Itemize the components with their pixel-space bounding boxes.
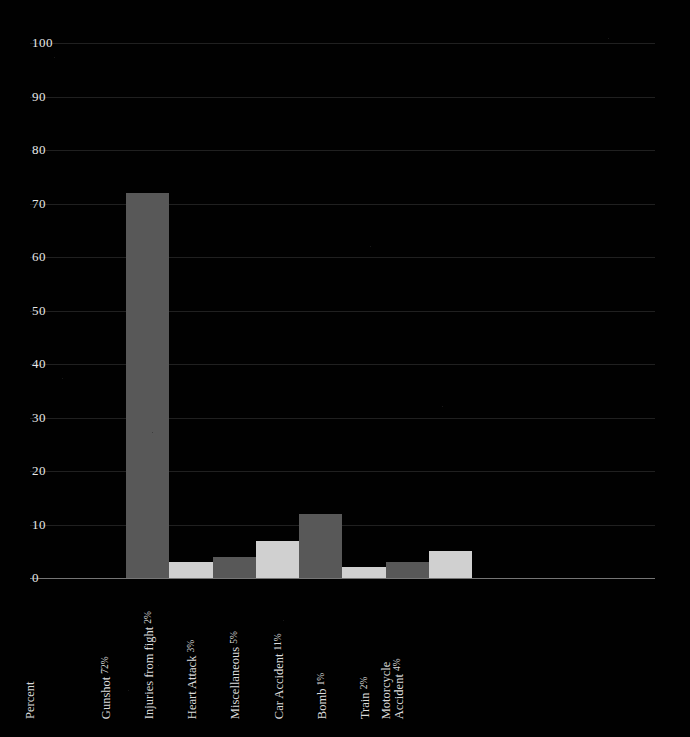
noise-speck xyxy=(608,38,609,39)
category-label-percent: 11% xyxy=(272,633,282,650)
x-category-label: Heart Attack 3% xyxy=(186,640,199,719)
plot-area xyxy=(30,43,655,578)
category-label-percent: 2% xyxy=(142,611,152,624)
noise-speck xyxy=(283,620,284,621)
category-label-percent: 3% xyxy=(186,640,196,653)
category-label-percent: 5% xyxy=(229,631,239,644)
y-tick-label: 0 xyxy=(32,570,39,586)
bar xyxy=(169,562,212,578)
x-axis-title: Percent xyxy=(23,682,38,719)
bar xyxy=(342,567,385,578)
y-tick-label: 90 xyxy=(32,89,46,105)
y-tick-label: 30 xyxy=(32,410,46,426)
y-tick-label: 50 xyxy=(32,303,46,319)
noise-speck xyxy=(442,406,443,407)
noise-speck xyxy=(54,57,55,58)
category-label-name: Car Accident xyxy=(272,650,286,719)
category-label-percent: 4% xyxy=(393,658,403,671)
x-category-label: Injuries from fight 2% xyxy=(143,611,156,719)
bar xyxy=(126,193,169,578)
y-tick-label: 100 xyxy=(32,35,53,51)
category-label-name: Gunshot xyxy=(99,674,113,720)
category-label-name: Bomb xyxy=(315,685,329,719)
y-tick-label: 20 xyxy=(32,463,46,479)
y-tick-label: 40 xyxy=(32,356,46,372)
bar-chart: 0102030405060708090100 Percent Gunshot 7… xyxy=(0,0,690,737)
noise-speck xyxy=(62,378,63,379)
bar xyxy=(256,541,299,578)
x-category-label: Motorcycle Accident 4% xyxy=(380,629,406,719)
x-axis-category-labels: Percent Gunshot 72%Injuries from fight 2… xyxy=(0,600,690,737)
y-tick-label: 70 xyxy=(32,196,46,212)
y-tick-label: 80 xyxy=(32,142,46,158)
category-label-percent: 2% xyxy=(359,677,369,690)
category-label-name: Injuries from fight xyxy=(142,624,156,719)
x-category-label: Train 2% xyxy=(359,677,372,719)
bar xyxy=(299,514,342,578)
x-category-label: Car Accident 11% xyxy=(273,633,286,719)
x-category-label: Gunshot 72% xyxy=(100,656,113,719)
category-label-name: Miscellaneous xyxy=(228,644,242,719)
bar xyxy=(429,551,472,578)
category-label-percent: 72% xyxy=(99,656,109,673)
bar-series xyxy=(126,43,472,578)
axis-baseline xyxy=(30,578,655,579)
y-tick-label: 10 xyxy=(32,517,46,533)
y-tick-label: 60 xyxy=(32,249,46,265)
noise-speck xyxy=(158,665,159,666)
x-category-label: Bomb 1% xyxy=(316,673,329,719)
category-label-name: Heart Attack xyxy=(185,652,199,719)
x-category-label: Miscellaneous 5% xyxy=(229,631,242,719)
noise-speck xyxy=(370,246,371,247)
category-label-name: Train xyxy=(358,689,372,719)
bar xyxy=(213,557,256,578)
noise-speck xyxy=(128,690,129,691)
noise-speck xyxy=(152,432,153,433)
category-label-percent: 1% xyxy=(315,673,325,686)
bar xyxy=(386,562,429,578)
